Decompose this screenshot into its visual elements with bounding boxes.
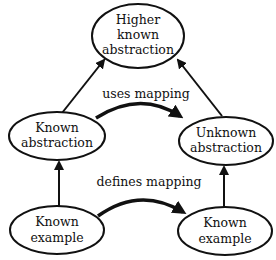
- arrow-known-abstraction-to-higher: [62, 60, 104, 113]
- node-higher-line2: known: [117, 27, 159, 42]
- node-known-abstraction: Known abstraction: [9, 112, 105, 160]
- defines-mapping-label: defines mapping: [97, 174, 202, 189]
- diagram-canvas: uses mapping defines mapping Higher know…: [0, 0, 276, 260]
- node-unknown-abstraction-line1: Unknown: [196, 125, 257, 140]
- node-known-example-right: Known example: [178, 207, 272, 255]
- node-known-abstraction-line1: Known: [35, 120, 79, 135]
- node-unknown-abstraction-line2: abstraction: [190, 140, 262, 155]
- node-higher-line1: Higher: [116, 12, 160, 27]
- node-known-example-left: Known example: [10, 206, 104, 254]
- node-known-example-left-line2: example: [30, 230, 83, 245]
- uses-mapping-label: uses mapping: [102, 86, 190, 101]
- defines-mapping-arrow: [98, 200, 183, 216]
- node-known-abstraction-line2: abstraction: [21, 135, 93, 150]
- node-known-example-left-line1: Known: [35, 214, 79, 229]
- node-known-example-right-line1: Known: [203, 215, 247, 230]
- node-unknown-abstraction: Unknown abstraction: [179, 117, 273, 165]
- uses-mapping-arrow: [96, 103, 180, 118]
- node-higher-known-abstraction: Higher known abstraction: [92, 4, 184, 68]
- node-higher-line3: abstraction: [102, 42, 174, 57]
- node-known-example-right-line2: example: [198, 231, 251, 246]
